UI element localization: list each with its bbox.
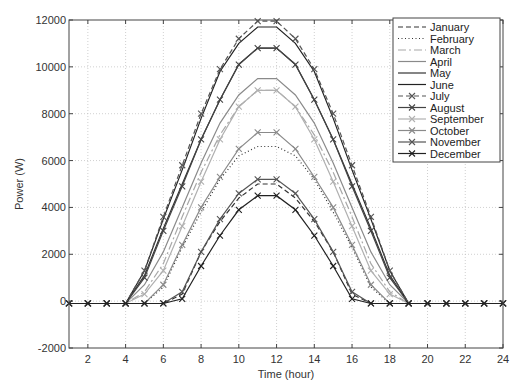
legend-label: January: [430, 21, 470, 33]
x-marker-icon: [292, 36, 298, 42]
series-line: [69, 184, 503, 304]
series-january: [69, 184, 503, 304]
x-marker-icon: [160, 282, 166, 288]
x-marker-icon: [330, 179, 336, 185]
x-marker-icon: [330, 263, 336, 269]
x-marker-icon: [236, 207, 242, 213]
legend-label: September: [430, 113, 484, 125]
x-marker-icon: [330, 204, 336, 210]
x-marker-icon: [217, 233, 223, 239]
y-tick-label: 0: [60, 295, 66, 307]
x-marker-icon: [217, 136, 223, 142]
x-tick-label: 2: [85, 353, 91, 365]
x-tick-label: 14: [308, 353, 320, 365]
x-marker-icon: [217, 97, 223, 103]
x-tick-label: 10: [233, 353, 245, 365]
legend-label: June: [430, 79, 454, 91]
legend-label: December: [430, 148, 481, 160]
x-marker-icon: [292, 146, 298, 152]
x-marker-icon: [217, 174, 223, 180]
x-axis-label: Time (hour): [258, 368, 314, 380]
y-tick-label: 10000: [35, 61, 66, 73]
y-axis-label: Power (W): [13, 158, 25, 210]
legend-label: August: [430, 102, 464, 114]
x-tick-label: 20: [421, 353, 433, 365]
x-tick-label: 8: [198, 353, 204, 365]
legend: JanuaryFebruaryMarchAprilMayJuneJulyAugu…: [393, 18, 500, 162]
y-tick-label: 4000: [42, 201, 66, 213]
x-tick-label: 18: [384, 353, 396, 365]
series-november: [66, 176, 506, 306]
y-tick-label: 8000: [42, 108, 66, 120]
y-tick-label: -2000: [38, 342, 66, 354]
series-line: [69, 179, 503, 303]
x-marker-icon: [292, 190, 298, 196]
x-marker-icon: [179, 242, 185, 248]
series-line: [69, 147, 503, 304]
legend-label: February: [430, 33, 475, 45]
x-marker-icon: [368, 268, 374, 274]
x-tick-label: 24: [497, 353, 509, 365]
x-marker-icon: [330, 136, 336, 142]
x-marker-icon: [255, 18, 261, 24]
x-marker-icon: [236, 36, 242, 42]
y-tick-label: 2000: [42, 248, 66, 260]
legend-label: May: [430, 67, 451, 79]
x-marker-icon: [179, 223, 185, 229]
series-line: [69, 196, 503, 304]
x-tick-label: 4: [123, 353, 129, 365]
series-february: [69, 147, 503, 304]
x-tick-label: 12: [270, 353, 282, 365]
legend-label: April: [430, 56, 452, 68]
legend-label: October: [430, 125, 469, 137]
x-tick-label: 16: [346, 353, 358, 365]
x-marker-icon: [141, 291, 147, 297]
x-marker-icon: [368, 282, 374, 288]
x-marker-icon: [292, 207, 298, 213]
legend-label: March: [430, 44, 461, 56]
x-tick-label: 22: [459, 353, 471, 365]
x-marker-icon: [292, 104, 298, 110]
monthly-power-chart: 24681012141618202224-2000020004000600080…: [0, 0, 520, 387]
series-december: [66, 193, 506, 307]
x-tick-label: 6: [160, 353, 166, 365]
y-tick-label: 6000: [42, 155, 66, 167]
x-marker-icon: [292, 62, 298, 68]
legend-label: November: [430, 136, 481, 148]
legend-label: July: [430, 90, 450, 102]
y-tick-label: 12000: [35, 14, 66, 26]
